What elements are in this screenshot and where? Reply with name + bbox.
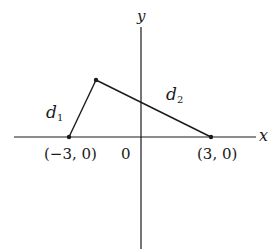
d2-label: d2 bbox=[166, 86, 183, 105]
point-left-focus bbox=[67, 135, 71, 139]
origin-label: 0 bbox=[121, 147, 131, 162]
point-right-focus bbox=[209, 135, 213, 139]
right-focus-label: (3, 0) bbox=[197, 147, 237, 162]
d2-label-main: d bbox=[166, 84, 177, 104]
d1-label-subscript: 1 bbox=[57, 112, 63, 123]
d1-label-main: d bbox=[46, 102, 57, 122]
point-on-curve bbox=[94, 78, 98, 82]
d1-label: d1 bbox=[46, 104, 63, 123]
diagram-canvas: y x 0 (−3, 0) (3, 0) d1 d2 bbox=[0, 0, 270, 249]
x-axis-label: x bbox=[259, 128, 268, 144]
left-focus-label: (−3, 0) bbox=[44, 147, 97, 162]
segment-d1 bbox=[69, 80, 96, 137]
segment-d2 bbox=[96, 80, 211, 137]
y-axis-label: y bbox=[137, 9, 145, 24]
diagram-svg bbox=[0, 0, 270, 249]
d2-label-subscript: 2 bbox=[177, 94, 183, 105]
